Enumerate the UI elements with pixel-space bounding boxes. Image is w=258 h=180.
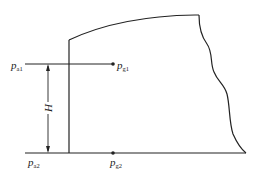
arrow-down-icon [46,146,50,153]
label-pg2: pg2 [109,156,122,169]
height-label: H [42,103,54,113]
label-pa1: pa1 [10,59,23,72]
chimney-pressure-diagram: H pa1 pg1 pa2 pg2 [0,0,258,180]
point-g1-dot [111,62,115,66]
label-pg1: pg1 [116,59,129,72]
arrow-up-icon [46,64,50,71]
wavy-right-edge [199,15,246,153]
point-g2-dot [111,151,115,155]
top-curve [69,15,199,40]
label-pa2: pa2 [27,156,40,169]
